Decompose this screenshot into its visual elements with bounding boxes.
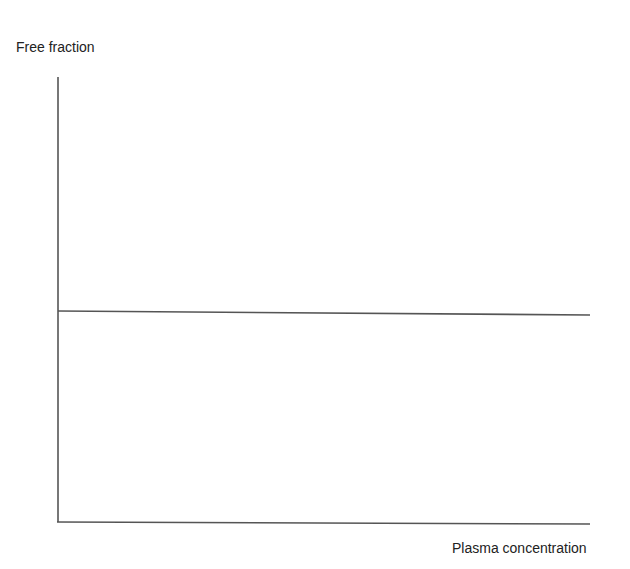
x-axis-line [57,522,590,524]
free-fraction-line [58,311,590,315]
chart-plot-area [0,0,630,569]
